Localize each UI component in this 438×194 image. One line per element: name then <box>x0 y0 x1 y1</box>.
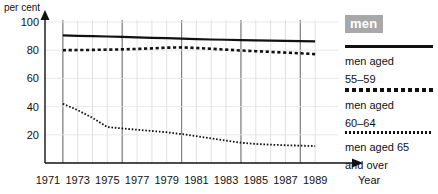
y-tick-label: 60 <box>9 73 39 84</box>
legend-label: men aged 55–59 <box>345 55 394 85</box>
legend-label: men aged 60–64 <box>345 99 394 129</box>
y-tick-label: 40 <box>9 102 39 113</box>
legend-swatch-dashed-icon <box>345 88 433 92</box>
legend-swatch-solid-icon <box>345 45 433 48</box>
y-tick-label: 80 <box>9 45 39 56</box>
chart-legend: men men aged 55–59 men aged 60–64 men ag… <box>345 14 437 33</box>
x-axis-label: Year <box>358 174 380 186</box>
legend-item-men-60-64: men aged 60–64 <box>345 88 438 131</box>
y-tick-label: 100 <box>9 17 39 28</box>
legend-swatch-dotted-icon <box>345 131 433 134</box>
legend-label: men aged 65 and over <box>345 141 409 171</box>
y-tick-label: 20 <box>9 130 39 141</box>
legend-header-men: men <box>345 15 383 33</box>
legend-item-men-55-59: men aged 55–59 <box>345 45 438 87</box>
x-tick-label: 1989 <box>298 174 332 186</box>
legend-item-men-65-over: men aged 65 and over <box>345 131 438 173</box>
chart-container: per cent 100 80 60 40 20 1971 1973 1975 … <box>0 0 438 194</box>
